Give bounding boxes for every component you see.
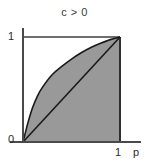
chart-title: c > 0 bbox=[0, 6, 149, 18]
plot-canvas bbox=[0, 0, 149, 165]
y-axis-tick-label-1: 1 bbox=[8, 31, 14, 42]
x-axis-label: p bbox=[133, 147, 139, 158]
chart-figure: c > 0 1 0 1 p bbox=[0, 0, 149, 165]
y-axis-tick-label-0: 0 bbox=[8, 134, 14, 145]
x-axis-tick-label-1: 1 bbox=[115, 147, 121, 158]
